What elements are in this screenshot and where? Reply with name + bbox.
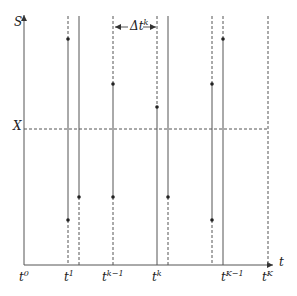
tick-tK: tK xyxy=(262,270,273,283)
tick-tk-1: tk−1 xyxy=(102,270,123,283)
diagram-canvas xyxy=(0,0,297,296)
tick-tk: tk xyxy=(152,270,162,283)
delta-label: Δtk xyxy=(130,19,148,32)
y-axis-label: S xyxy=(14,16,22,28)
strike-label: X xyxy=(13,120,22,132)
tick-t1: t1 xyxy=(64,270,74,283)
tick-t0: t0 xyxy=(19,270,29,283)
tick-tK-1: tK−1 xyxy=(221,270,244,283)
x-axis-label: t xyxy=(279,256,284,268)
